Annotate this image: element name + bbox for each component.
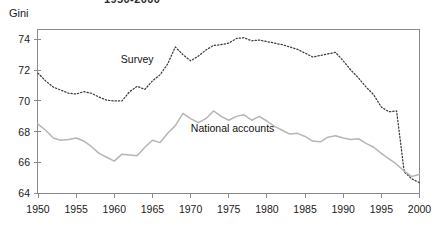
gini-trend-figure: 1950-2000 Gini 646668707274 195019551960… bbox=[0, 0, 435, 230]
x-tick-label: 1995 bbox=[370, 203, 394, 215]
y-tick-label: 68 bbox=[18, 126, 30, 138]
y-tick-label: 72 bbox=[18, 64, 30, 76]
x-axis-ticks: 1950195519601965197019751980198519901995… bbox=[26, 194, 431, 215]
plot-frame bbox=[38, 30, 420, 194]
x-tick-label: 2000 bbox=[408, 203, 432, 215]
x-tick-label: 1960 bbox=[103, 203, 127, 215]
y-tick-label: 64 bbox=[18, 187, 30, 199]
y-tick-label: 74 bbox=[18, 33, 30, 45]
y-tick-label: 70 bbox=[18, 95, 30, 107]
x-tick-label: 1955 bbox=[64, 203, 88, 215]
chart-canvas: 646668707274 195019551960196519701975198… bbox=[0, 0, 435, 230]
y-tick-label: 66 bbox=[18, 156, 30, 168]
x-tick-label: 1950 bbox=[26, 203, 50, 215]
x-tick-label: 1970 bbox=[179, 203, 203, 215]
series-lines bbox=[38, 38, 420, 183]
series-line-survey bbox=[38, 38, 420, 183]
x-tick-label: 1990 bbox=[332, 203, 356, 215]
series-label-national-accounts: National accounts bbox=[191, 122, 274, 134]
x-tick-label: 1975 bbox=[217, 203, 241, 215]
series-label-survey: Survey bbox=[121, 53, 154, 65]
x-tick-label: 1980 bbox=[255, 203, 279, 215]
x-tick-label: 1965 bbox=[141, 203, 165, 215]
x-tick-label: 1985 bbox=[293, 203, 317, 215]
plot-border bbox=[38, 30, 420, 194]
series-annotations: SurveyNational accounts bbox=[121, 53, 274, 134]
